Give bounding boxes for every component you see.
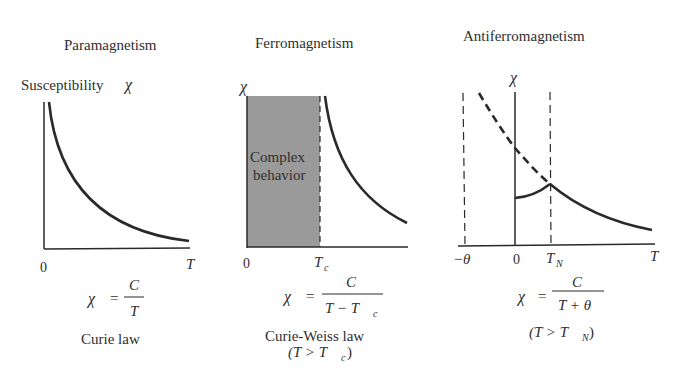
tc-main: T	[314, 254, 324, 270]
tc-sub: c	[324, 262, 329, 273]
above-tn-curve	[550, 184, 652, 230]
curie-law-formula: χ = C T	[86, 277, 144, 319]
panel-title: Ferromagnetism	[255, 35, 354, 51]
y-axis-label: Susceptibility	[21, 77, 104, 93]
formula-lhs: χ	[516, 288, 526, 306]
formula-equals: =	[110, 290, 118, 306]
panel-paramagnetism: Paramagnetism Susceptibility χ 0 T χ = C…	[21, 37, 196, 347]
formula-numerator: C	[346, 274, 357, 290]
condition-close: )	[347, 344, 352, 361]
formula-lhs: χ	[282, 288, 292, 306]
condition-main: (T > T	[288, 344, 329, 361]
law-name: Curie law	[81, 331, 140, 347]
below-tn-curve	[515, 184, 550, 198]
tn-sub: N	[555, 258, 564, 269]
x-origin-label: 0	[40, 260, 47, 275]
chi-symbol: χ	[123, 76, 133, 94]
formula-lhs: χ	[86, 290, 96, 308]
magnetism-susceptibility-diagram: Paramagnetism Susceptibility χ 0 T χ = C…	[0, 0, 685, 382]
condition-sub: c	[341, 352, 346, 363]
condition-close: )	[589, 324, 594, 341]
formula-denominator: T	[130, 303, 140, 319]
formula-denominator: T − T	[325, 300, 361, 316]
x-axis-label: T	[186, 256, 196, 272]
extrapolated-curve-dashed	[479, 93, 549, 183]
condition: (T > T c )	[288, 344, 352, 363]
formula-numerator: C	[129, 277, 140, 293]
curie-weiss-formula: χ = C T − T c	[282, 274, 383, 319]
x-axis	[44, 248, 190, 249]
x-axis	[458, 244, 655, 246]
formula-denominator-sub: c	[373, 308, 378, 319]
neg-theta-label: −θ	[453, 251, 471, 267]
condition-main: (T > T	[529, 324, 570, 341]
chi-symbol: χ	[508, 69, 518, 87]
curie-weiss-curve	[325, 96, 407, 223]
x-origin-label: 0	[513, 252, 520, 267]
condition: (T > T N )	[529, 324, 594, 343]
tn-dashed-line	[550, 92, 551, 246]
law-name: Curie-Weiss law	[265, 328, 364, 344]
antiferro-formula: χ = C T + θ	[516, 274, 604, 313]
x-axis-label: T	[650, 248, 660, 264]
formula-numerator: C	[572, 274, 583, 290]
region-label-line2: behavior	[253, 167, 305, 183]
panel-title: Antiferromagnetism	[463, 28, 585, 44]
x-origin-label: 0	[243, 256, 250, 271]
neg-theta-dashed-line	[463, 93, 465, 246]
panel-title: Paramagnetism	[64, 37, 157, 53]
tc-label: T c	[314, 254, 329, 273]
region-label-line1: Complex	[250, 149, 305, 165]
tn-main: T	[546, 250, 556, 266]
formula-equals: =	[538, 288, 546, 304]
formula-denominator: T + θ	[558, 297, 592, 313]
tn-label: T N	[546, 250, 564, 269]
chi-symbol: χ	[238, 78, 248, 96]
formula-equals: =	[306, 288, 314, 304]
panel-antiferromagnetism: Antiferromagnetism χ −θ 0 T N T χ = C T …	[453, 28, 660, 343]
panel-ferromagnetism: Ferromagnetism χ Complex behavior 0 T c …	[238, 35, 408, 363]
curie-curve	[49, 102, 189, 241]
